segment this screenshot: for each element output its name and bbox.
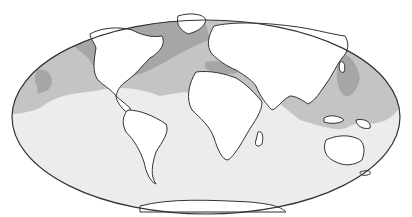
world-map [0, 0, 412, 217]
japan [339, 62, 345, 73]
